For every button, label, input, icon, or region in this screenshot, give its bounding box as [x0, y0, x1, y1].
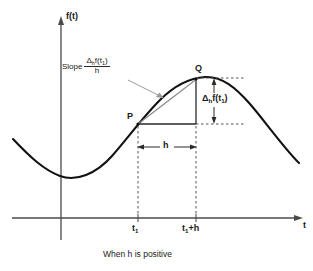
rise-annotation-label: Δhf(t1) — [202, 94, 228, 103]
tick-label-t1h-sub: 1 — [185, 227, 188, 234]
run-measure-arrowhead-right — [190, 145, 197, 150]
slope-fraction-numerator: Δhf(t1) — [84, 57, 109, 65]
tick-label-t1-sub: 1 — [135, 227, 138, 234]
point-label-p: P — [127, 112, 133, 121]
function-curve-group — [13, 77, 299, 178]
tick-label-t1: t1 — [132, 224, 138, 233]
point-marker-q — [194, 77, 197, 80]
figure-caption: When h is positive — [103, 250, 172, 259]
secant-line-pq — [138, 78, 198, 124]
slope-leader-arrow — [128, 80, 164, 99]
slope-numerator-delta-sub: h — [92, 60, 95, 66]
rise-function-close: ) — [225, 93, 228, 103]
y-axis-arrowhead — [58, 16, 64, 25]
run-measure-arrowhead-left — [137, 145, 144, 150]
rise-measure-arrowhead-bottom — [212, 117, 217, 124]
slope-numerator-delta: Δ — [86, 56, 91, 65]
point-marker-p — [136, 122, 139, 125]
slope-fraction: Δhf(t1) h — [84, 57, 109, 75]
point-label-q: Q — [195, 64, 202, 73]
slope-fraction-denominator: h — [84, 67, 109, 75]
slope-word-label: Slope — [62, 63, 82, 71]
difference-quotient-diagram: f(t) t P Q h t1 t1+h Δhf(t1) Slope Δhf(t… — [0, 0, 313, 271]
slope-annotation: Slope Δhf(t1) h — [62, 58, 110, 76]
function-curve — [13, 77, 299, 178]
figure-canvas — [0, 0, 313, 271]
tick-label-t1-plus-h: t1+h — [182, 224, 199, 233]
slope-numerator-close: ) — [105, 56, 108, 65]
y-axis-label: f(t) — [66, 12, 78, 21]
rise-function-text: f(t — [212, 93, 221, 103]
rise-function-subscript: 1 — [221, 97, 224, 104]
slope-leader-arrowhead — [156, 93, 164, 99]
axes-group — [12, 16, 303, 240]
slope-leader-shaft — [128, 80, 160, 96]
tick-label-t1h-tail: +h — [188, 223, 199, 233]
rise-delta-subscript: h — [208, 97, 212, 104]
slope-numerator-function: f(t — [95, 56, 102, 65]
construction-lines-group — [138, 78, 198, 124]
slope-numerator-sub: 1 — [102, 60, 105, 66]
x-axis-label: t — [303, 221, 306, 230]
run-measure-label: h — [163, 141, 169, 150]
x-axis-arrowhead — [294, 215, 303, 221]
